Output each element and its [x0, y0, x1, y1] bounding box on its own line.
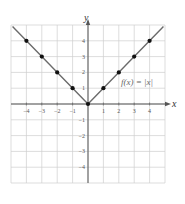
svg-text:−1: −1	[79, 117, 85, 123]
data-point	[55, 70, 59, 74]
svg-text:1: 1	[82, 85, 85, 91]
svg-text:3: 3	[133, 108, 136, 114]
svg-text:2: 2	[117, 108, 120, 114]
svg-text:3: 3	[82, 54, 85, 60]
data-point	[86, 102, 90, 106]
svg-text:4: 4	[82, 38, 85, 44]
data-point	[117, 70, 121, 74]
data-point	[101, 86, 105, 90]
svg-text:−4: −4	[79, 164, 85, 170]
svg-text:−1: −1	[69, 108, 75, 114]
svg-text:−3: −3	[39, 108, 45, 114]
data-point	[24, 39, 28, 43]
x-axis-label: x	[171, 98, 177, 109]
data-point	[40, 55, 44, 59]
svg-text:−2: −2	[79, 133, 85, 139]
data-point	[71, 86, 75, 90]
data-point	[132, 55, 136, 59]
svg-text:1: 1	[102, 108, 105, 114]
svg-text:−2: −2	[54, 108, 60, 114]
svg-text:−4: −4	[23, 108, 29, 114]
graph-canvas: −4−3−2−112344321−1−2−3−4 x y f(x) = |x|	[0, 0, 185, 204]
svg-text:−3: −3	[79, 148, 85, 154]
function-label: f(x) = |x|	[121, 77, 153, 87]
data-point	[148, 39, 152, 43]
svg-text:4: 4	[148, 108, 151, 114]
svg-text:2: 2	[82, 69, 85, 75]
y-axis-label: y	[83, 12, 89, 23]
